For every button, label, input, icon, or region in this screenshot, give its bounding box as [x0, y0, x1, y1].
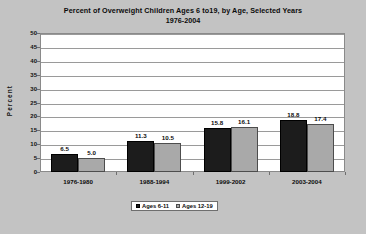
y-tick-label: 45	[22, 44, 37, 50]
bar-value-label: 15.8	[202, 119, 232, 126]
y-tick-label: 0	[22, 169, 37, 175]
x-tick-mark	[116, 172, 117, 175]
bar	[51, 154, 78, 172]
y-tick-label: 40	[22, 58, 37, 64]
x-tick-label: 1999-2002	[199, 178, 263, 185]
x-tick-mark	[345, 172, 346, 175]
y-tick-mark	[37, 172, 40, 173]
y-tick-label: 20	[22, 113, 37, 119]
y-tick-label: 15	[22, 127, 37, 133]
bar	[231, 127, 258, 172]
legend-item[interactable]: Ages 6-11	[136, 203, 169, 209]
bar	[204, 128, 231, 172]
bar-value-label: 16.1	[229, 118, 259, 125]
bar	[280, 120, 307, 172]
bar-value-label: 6.5	[50, 145, 80, 152]
x-tick-label: 1988-1994	[122, 178, 186, 185]
bar	[127, 141, 154, 172]
gridline	[41, 104, 344, 105]
x-tick-label: 2003-2004	[275, 178, 339, 185]
bar-value-label: 17.4	[305, 115, 335, 122]
chart-container: Percent of Overweight Children Ages 6 to…	[0, 0, 366, 234]
legend-swatch-icon	[136, 204, 140, 208]
y-tick-label: 25	[22, 100, 37, 106]
y-tick-label: 10	[22, 141, 37, 147]
x-tick-label: 1976-1980	[46, 178, 110, 185]
x-tick-mark	[193, 172, 194, 175]
bar-value-label: 10.5	[153, 134, 183, 141]
bar-value-label: 11.3	[126, 132, 156, 139]
legend-swatch-icon	[176, 204, 180, 208]
bar-value-label: 18.8	[278, 111, 308, 118]
gridline	[41, 34, 344, 35]
x-tick-mark	[269, 172, 270, 175]
y-tick-label: 30	[22, 86, 37, 92]
gridline	[41, 90, 344, 91]
y-tick-label: 5	[22, 155, 37, 161]
gridline	[41, 62, 344, 63]
bar	[154, 143, 181, 172]
y-tick-label: 35	[22, 72, 37, 78]
gridline	[41, 48, 344, 49]
bar-value-label: 5.0	[77, 149, 107, 156]
y-tick-label: 50	[22, 30, 37, 36]
bar	[78, 158, 105, 172]
legend-label: Ages 6-11	[142, 203, 169, 209]
legend-label: Ages 12-19	[182, 203, 213, 209]
legend-item[interactable]: Ages 12-19	[176, 203, 213, 209]
chart-legend: Ages 6-11Ages 12-19	[131, 201, 218, 211]
gridline	[41, 76, 344, 77]
bar	[307, 124, 334, 172]
